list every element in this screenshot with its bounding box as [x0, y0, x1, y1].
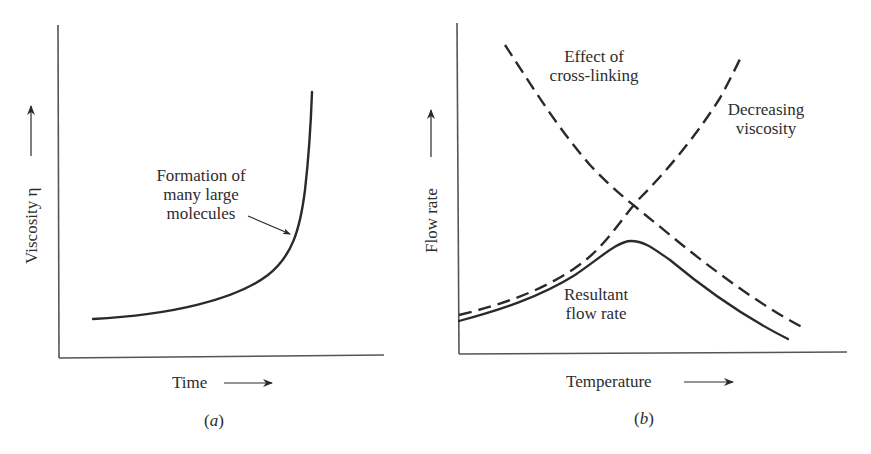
- panel-b-caption: (b): [634, 409, 654, 429]
- panel-b-x-label: Temperature: [566, 372, 652, 391]
- panel-a-x-axis: [59, 355, 384, 358]
- resultant-label-line-1: Resultant: [548, 285, 644, 304]
- panel-a-caption: (a): [204, 411, 224, 431]
- panel-b-x-axis: [459, 352, 847, 354]
- panel-a-annotation-line-1: Formation of: [140, 166, 262, 185]
- viscosity-label-line-1: Decreasing: [716, 100, 816, 119]
- panel-a-x-label: Time: [172, 373, 207, 392]
- viscosity-label-line-2: viscosity: [716, 119, 816, 138]
- panel-a-annotation: Formation of many large molecules: [140, 166, 262, 223]
- panel-b-decreasing-viscosity-curve: [459, 55, 742, 315]
- panel-b-crosslink-label: Effect of cross-linking: [538, 47, 650, 85]
- panel-b-viscosity-label: Decreasing viscosity: [716, 100, 816, 138]
- panel-a-annotation-line-2: many large: [140, 185, 262, 204]
- panel-b-y-label: Flow rate: [422, 188, 442, 253]
- crosslink-label-line-2: cross-linking: [538, 66, 650, 85]
- crosslink-label-line-1: Effect of: [538, 47, 650, 66]
- caption-close-paren: ): [218, 411, 224, 430]
- panel-a-y-axis: [58, 25, 59, 358]
- caption-letter: a: [210, 411, 219, 430]
- panel-b-y-axis: [457, 23, 459, 354]
- panel-b-resultant-label: Resultant flow rate: [548, 285, 644, 323]
- panel-a-y-label: Viscosity η: [22, 188, 42, 264]
- caption-letter: b: [640, 409, 649, 428]
- caption-close-paren: ): [648, 409, 654, 428]
- resultant-label-line-2: flow rate: [548, 304, 644, 323]
- panel-a-annotation-line-3: molecules: [140, 204, 262, 223]
